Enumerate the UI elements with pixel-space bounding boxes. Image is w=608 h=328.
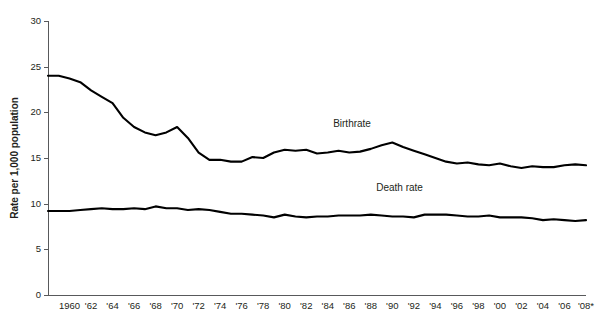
x-tick-label: '82 — [300, 300, 312, 311]
y-axis-title: Rate per 1,000 population — [9, 97, 20, 219]
series-lines — [48, 76, 586, 221]
series-label-death-rate: Death rate — [376, 182, 423, 193]
x-axis: 1960'62'64'66'68'70'72'74'76'78'80'82'84… — [48, 296, 594, 312]
x-tick-label: '78 — [257, 300, 269, 311]
x-tick-label: '92 — [408, 300, 420, 311]
x-tick-label: '02 — [515, 300, 527, 311]
x-tick-label: '94 — [429, 300, 441, 311]
x-tick-label: '64 — [106, 300, 118, 311]
series-label-birthrate: Birthrate — [333, 118, 371, 129]
x-tick-label: '76 — [235, 300, 247, 311]
x-tick-label: '66 — [128, 300, 140, 311]
x-tick-label: '80 — [279, 300, 291, 311]
y-tick-label: 30 — [30, 15, 41, 26]
y-tick-label: 15 — [30, 152, 41, 163]
x-tick-label: '96 — [451, 300, 463, 311]
series-line-birthrate — [48, 76, 586, 168]
x-tick-label: '08* — [578, 300, 594, 311]
x-tick-label: '72 — [192, 300, 204, 311]
x-tick-label: '88 — [365, 300, 377, 311]
x-tick-label: '98 — [472, 300, 484, 311]
x-tick-label: '04 — [537, 300, 549, 311]
x-tick-label: '06 — [558, 300, 570, 311]
line-chart: 051015202530 1960'62'64'66'68'70'72'74'7… — [0, 0, 608, 328]
y-tick-label: 25 — [30, 61, 41, 72]
y-tick-label: 0 — [36, 289, 41, 300]
series-line-death-rate — [48, 206, 586, 221]
chart-container: 051015202530 1960'62'64'66'68'70'72'74'7… — [0, 0, 608, 328]
y-tick-label: 20 — [30, 106, 41, 117]
x-tick-label: '86 — [343, 300, 355, 311]
series-annotations: BirthrateDeath rate — [333, 118, 423, 193]
x-tick-label: '74 — [214, 300, 226, 311]
x-tick-label: '70 — [171, 300, 183, 311]
x-tick-label: '90 — [386, 300, 398, 311]
y-tick-label: 10 — [30, 198, 41, 209]
y-axis-title-text: Rate per 1,000 population — [9, 97, 20, 219]
x-tick-label: '84 — [322, 300, 334, 311]
x-tick-label: '68 — [149, 300, 161, 311]
x-tick-label: '62 — [85, 300, 97, 311]
y-tick-label: 5 — [36, 243, 41, 254]
x-tick-label: '00 — [494, 300, 506, 311]
y-axis: 051015202530 — [30, 15, 48, 300]
x-tick-label: 1960 — [59, 300, 80, 311]
